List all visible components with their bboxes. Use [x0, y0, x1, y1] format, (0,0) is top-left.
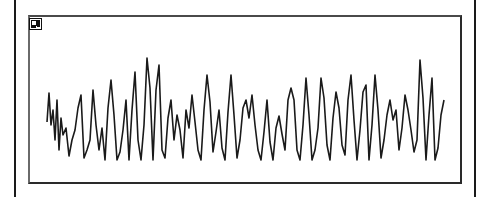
waveform-plot [0, 0, 485, 197]
waveform-trace [47, 58, 444, 160]
